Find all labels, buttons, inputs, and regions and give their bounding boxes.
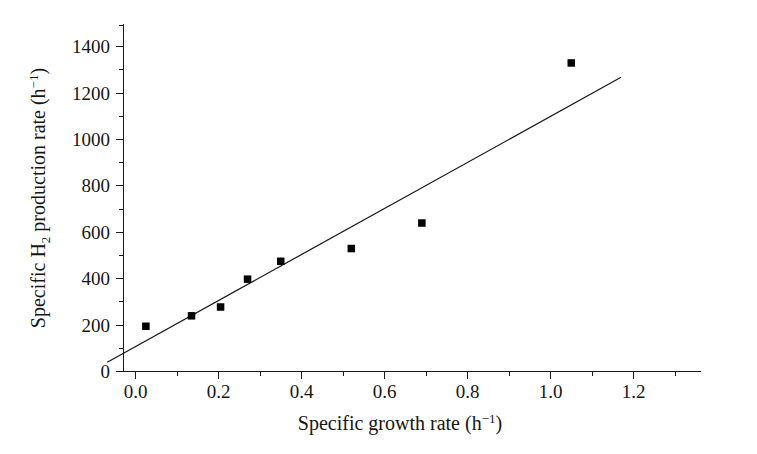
- y-tick-label: 1200: [72, 83, 110, 104]
- y-tick-label: 400: [82, 268, 111, 289]
- y-tick-label: 1000: [72, 129, 110, 150]
- y-tick-label: 1400: [72, 36, 110, 57]
- y-axis-title-close: ): [27, 68, 50, 75]
- x-axis-title-superscript: −1: [482, 411, 496, 426]
- y-axis-tick-labels: 0 200 400 600 800 1000 1200 1400: [72, 36, 110, 382]
- x-axis-major-ticks: [136, 372, 634, 380]
- data-point-marker: [418, 219, 426, 227]
- x-tick-label: 0.8: [456, 381, 480, 402]
- y-axis-title-pre: Specific H: [27, 243, 50, 328]
- x-tick-label: 0.4: [290, 381, 314, 402]
- x-tick-label: 1.0: [539, 381, 563, 402]
- data-point-marker: [217, 303, 225, 311]
- x-tick-label: 0.2: [207, 381, 231, 402]
- x-axis-title-close: ): [496, 412, 503, 435]
- y-tick-label: 800: [82, 175, 111, 196]
- data-point-marker: [348, 245, 356, 253]
- y-axis-title-mid: production rate (h: [27, 88, 50, 236]
- y-axis-title-superscript: −1: [26, 75, 41, 89]
- x-axis-minor-ticks: [177, 372, 675, 377]
- x-tick-label: 0.6: [373, 381, 397, 402]
- x-axis-title: Specific growth rate (h−1): [298, 411, 502, 435]
- y-tick-label: 200: [82, 315, 111, 336]
- data-point-marker: [277, 258, 285, 266]
- chart-figure: 0 200 400 600 800 1000 1200 1400: [0, 0, 757, 454]
- y-axis-title: Specific H2 production rate (h−1): [26, 68, 53, 328]
- scatter-plot-svg: 0 200 400 600 800 1000 1200 1400: [0, 0, 757, 454]
- x-tick-label: 0.0: [124, 381, 148, 402]
- data-point-marker: [568, 59, 576, 67]
- data-point-marker: [244, 275, 252, 283]
- y-tick-label: 0: [101, 361, 111, 382]
- y-tick-label: 600: [82, 222, 111, 243]
- y-axis-minor-ticks: [119, 26, 124, 349]
- x-axis-title-main: Specific growth rate (h: [298, 412, 482, 435]
- x-axis-tick-labels: 0.0 0.2 0.4 0.6 0.8 1.0 1.2: [124, 381, 646, 402]
- data-point-group: [142, 59, 575, 330]
- x-tick-label: 1.2: [622, 381, 646, 402]
- data-point-marker: [142, 323, 150, 331]
- data-point-marker: [188, 312, 196, 320]
- trend-line: [107, 77, 621, 362]
